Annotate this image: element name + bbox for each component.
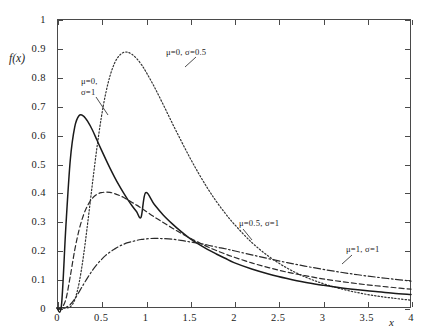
chart-figure: f(x) x 00.10.20.30.40.50.60.70.80.91 00.…	[0, 0, 424, 336]
x-tick-label-6: 3	[320, 312, 326, 323]
annotation-leader-lines	[96, 57, 352, 264]
series-line-0	[57, 52, 411, 308]
ann-sigma-half: μ=0, σ=0.5	[166, 47, 206, 57]
plot-canvas	[0, 0, 424, 336]
ann-mu0-line1: μ=0,	[81, 76, 98, 86]
leader-mu-one	[342, 255, 352, 264]
leader-sigma-half	[185, 57, 196, 67]
x-tick-label-1: 0.5	[94, 312, 109, 323]
ann-mu-half: μ=0.5, σ=1	[239, 218, 279, 228]
ann-mu-one: μ=1, σ=1	[346, 244, 379, 254]
x-tick-label-5: 2.5	[271, 312, 286, 323]
x-tick-label-3: 1.5	[182, 312, 197, 323]
series-line-1	[57, 115, 411, 313]
x-tick-label-4: 2	[231, 312, 237, 323]
x-tick-label-0: 0	[54, 312, 60, 323]
x-tick-label-8: 4	[408, 312, 414, 323]
ann-mu0-line2: σ=1	[81, 87, 95, 97]
x-tick-label-2: 1	[143, 312, 149, 323]
x-tick-label-7: 3.5	[359, 312, 374, 323]
